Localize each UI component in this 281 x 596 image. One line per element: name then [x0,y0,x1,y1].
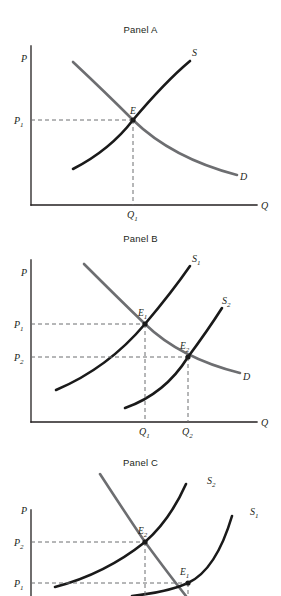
panel-a-price-tick-label: P1 [13,115,24,129]
panel-b-supply2-label: S2 [222,295,231,309]
panel-a-x-axis-label: Q [261,200,269,211]
panel-c: Panel C P S2 S1 E2 E1 P2 P1 [0,446,281,596]
panel-b-plot: P Q S1 S2 D E1 E2 P1 P2 Q1 Q2 [0,228,281,446]
panel-b-supply1-curve [56,266,190,390]
panel-b: Panel B P Q S1 S2 D E1 E2 [0,228,281,446]
panel-c-price1-tick-label: P1 [13,578,24,592]
panel-b-supply2-curve [125,308,222,408]
panel-c-equilibrium1-dot [185,580,190,585]
panel-a-y-axis-label: P [20,53,27,64]
panel-c-price2-tick-label: P2 [13,537,24,551]
panel-b-equilibrium1-dot [142,321,147,326]
panel-a: Panel A P Q S D E P1 Q1 [0,0,281,228]
panel-b-quantity1-tick-label: Q1 [139,426,150,440]
panel-a-plot: P Q S D E P1 Q1 [0,0,281,228]
panel-b-y-axis-label: P [20,267,27,278]
panel-a-equilibrium-dot [130,117,135,122]
panel-c-plot: P S2 S1 E2 E1 P2 P1 [0,446,281,596]
panel-b-quantity2-tick-label: Q2 [182,426,193,440]
panel-b-price1-tick-label: P1 [13,319,24,333]
panel-b-supply1-label: S1 [192,253,201,267]
supply-demand-figure: Panel A P Q S D E P1 Q1 Panel B [0,0,281,596]
panel-a-equilibrium-label: E [129,106,136,116]
panel-b-equilibrium2-dot [185,354,190,359]
panel-c-supply2-label: S2 [207,475,216,489]
panel-a-demand-label: D [239,171,248,182]
panel-b-x-axis-label: Q [261,417,269,428]
panel-c-y-axis-label: P [20,505,27,516]
panel-c-supply1-curve [132,516,232,596]
panel-c-equilibrium1-label: E1 [179,567,189,580]
panel-a-supply-label: S [192,47,197,58]
panel-b-demand-label: D [242,371,251,382]
panel-c-supply1-label: S1 [250,506,259,520]
panel-a-quantity-tick-label: Q1 [127,209,138,223]
panel-c-equilibrium2-dot [142,539,147,544]
panel-b-price2-tick-label: P2 [13,352,24,366]
panel-a-demand-curve [73,62,237,175]
